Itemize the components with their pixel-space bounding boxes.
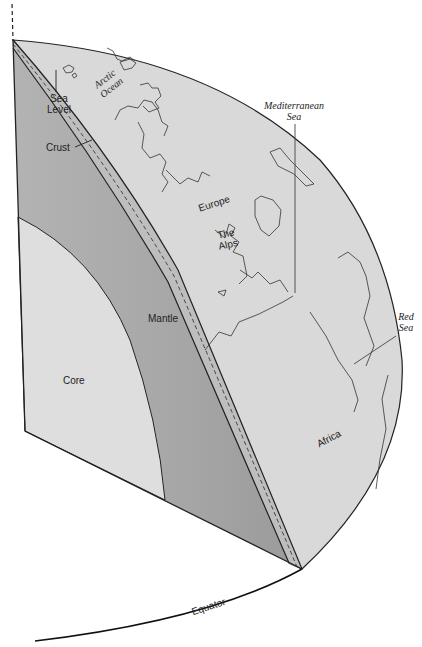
- mediterranean-sea-label: Mediterranean Sea: [254, 100, 334, 122]
- equator-line: [35, 569, 302, 641]
- mediterranean-label-line2: Sea: [254, 111, 334, 122]
- red-sea-label-line1: Red: [393, 311, 419, 322]
- crust-label: Crust: [46, 142, 70, 153]
- red-sea-label-line2: Sea: [393, 322, 419, 333]
- sea-level-label: Sea Level: [44, 93, 74, 115]
- sea-level-label-line1: Sea: [44, 93, 74, 104]
- polar-axis-line: [12, 4, 13, 40]
- mediterranean-label-line1: Mediterranean: [254, 100, 334, 111]
- mantle-label: Mantle: [148, 313, 178, 324]
- core-label: Core: [63, 375, 85, 386]
- sea-level-label-line2: Level: [44, 104, 74, 115]
- red-sea-label: Red Sea: [393, 311, 419, 333]
